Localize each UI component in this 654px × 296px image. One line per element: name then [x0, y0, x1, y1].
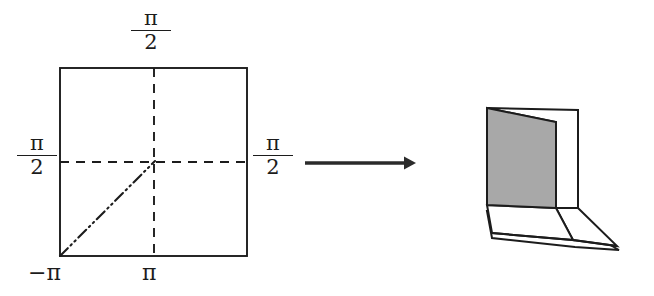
label-top-pi-over-2: π 2: [131, 8, 171, 53]
left-gray-panel: [487, 108, 556, 208]
label-top-denominator: 2: [131, 31, 171, 53]
label-right-denominator: 2: [253, 156, 293, 178]
label-right-numerator: π: [253, 133, 293, 156]
label-bottom-left-minus-pi: −π: [28, 262, 61, 284]
figure-root: π 2 π 2 π 2 −π π: [0, 0, 654, 296]
label-left-denominator: 2: [17, 156, 57, 178]
folded-surface-graphic: [487, 108, 619, 250]
label-right-pi-over-2: π 2: [253, 133, 293, 178]
label-bottom-center-pi: π: [142, 262, 156, 284]
label-top-numerator: π: [131, 8, 171, 31]
arrow-head: [404, 157, 416, 170]
label-left-pi-over-2: π 2: [17, 133, 57, 178]
diagonal-dashdot-line: [60, 161, 155, 256]
transform-arrow: [305, 157, 416, 170]
label-left-numerator: π: [17, 133, 57, 156]
square-domain-graphic: [0, 0, 654, 296]
